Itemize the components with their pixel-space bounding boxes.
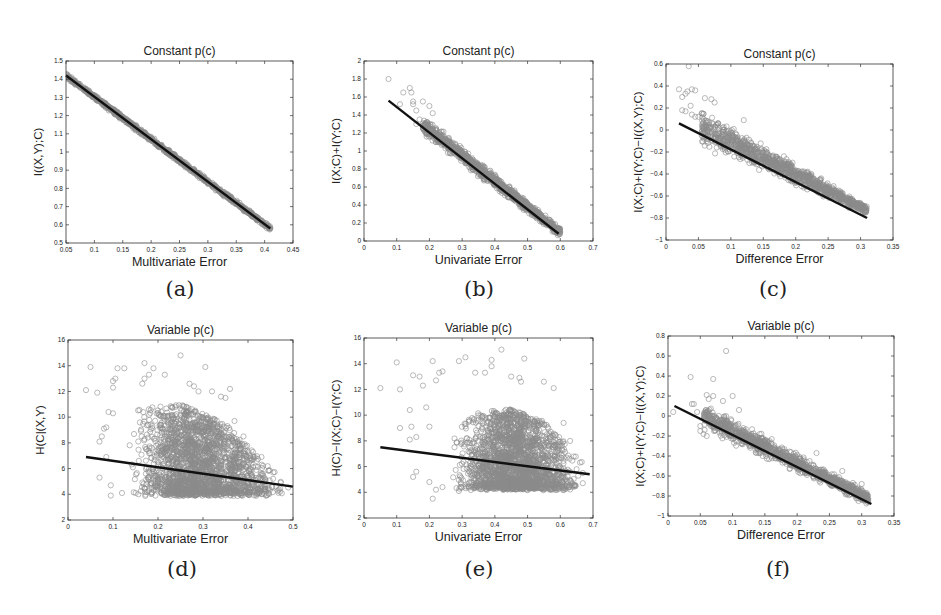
y-tick-label: 0.8: [54, 185, 63, 192]
data-point: [209, 389, 214, 394]
y-tick-label: 0.7: [54, 203, 63, 210]
panel-title: Variable p(c): [147, 323, 214, 337]
y-tick-label: 0.6: [352, 183, 361, 190]
data-point: [456, 359, 461, 364]
x-axis-label: Multivariate Error: [133, 532, 228, 546]
data-point: [122, 366, 127, 371]
x-tick-label: 0.3: [198, 523, 207, 530]
data-point: [688, 103, 693, 108]
data-point: [710, 115, 715, 120]
data-point: [473, 370, 478, 375]
data-point: [463, 355, 468, 360]
y-tick-label: 6: [61, 465, 65, 472]
data-point: [401, 90, 406, 95]
y-tick-label: 0.8: [656, 332, 665, 339]
data-point: [271, 476, 276, 481]
panel-caption-c: (c): [733, 277, 813, 301]
data-point: [427, 424, 432, 429]
data-point: [680, 94, 685, 99]
panel-caption-b: (b): [439, 277, 519, 301]
panel-f: 00.050.10.150.20.250.30.35−1−0.8−0.6−0.4…: [634, 319, 901, 542]
data-point: [440, 369, 445, 374]
x-tick-label: 0.45: [287, 246, 300, 253]
data-point: [420, 383, 425, 388]
x-tick-label: 0: [362, 244, 366, 251]
data-point: [386, 76, 391, 81]
data-point: [394, 360, 399, 365]
x-tick-label: 0.05: [60, 246, 73, 253]
x-tick-label: 0.7: [588, 244, 597, 251]
x-tick-label: 0: [362, 521, 366, 528]
x-tick-label: 0.2: [425, 244, 434, 251]
data-point: [695, 409, 700, 414]
y-tick-label: −0.4: [652, 452, 665, 459]
y-tick-label: −1: [658, 512, 666, 519]
y-axis-ticks: −1−0.8−0.6−0.4−0.200.20.40.6: [650, 60, 893, 243]
data-point: [97, 439, 102, 444]
y-tick-label: 0.2: [656, 392, 665, 399]
data-point: [397, 387, 402, 392]
y-tick-label: −0.8: [652, 492, 665, 499]
y-tick-label: 14: [58, 362, 66, 369]
data-point: [99, 434, 104, 439]
data-point: [407, 407, 412, 412]
data-point: [110, 385, 115, 390]
y-tick-label: 14: [354, 360, 362, 367]
y-tick-label: 0.9: [54, 166, 63, 173]
data-point: [427, 103, 432, 108]
data-point: [541, 379, 546, 384]
data-point: [713, 151, 718, 156]
x-tick-label: 0.1: [392, 521, 401, 528]
fit-line: [674, 406, 871, 504]
data-point: [522, 356, 527, 361]
x-tick-label: 0.3: [856, 243, 865, 250]
data-point: [430, 111, 435, 116]
scatter-points: [671, 348, 871, 506]
data-point: [411, 474, 416, 479]
x-tick-label: 0.5: [288, 523, 297, 530]
data-point: [162, 372, 167, 377]
data-point: [430, 496, 435, 501]
y-tick-label: 0.6: [654, 60, 663, 67]
x-tick-label: 0.2: [153, 523, 162, 530]
fit-line: [389, 101, 559, 234]
data-point: [693, 88, 698, 93]
data-point: [409, 90, 414, 95]
data-point: [119, 490, 124, 495]
panel-caption-d: (d): [142, 557, 222, 581]
x-tick-label: 0.1: [90, 246, 99, 253]
x-tick-label: 0.1: [728, 519, 737, 526]
data-point: [433, 378, 438, 383]
fit-line: [679, 123, 867, 218]
data-point: [683, 109, 688, 114]
panel-e: 00.10.20.30.40.50.60.7246810121416Variab…: [330, 321, 598, 544]
data-point: [143, 458, 148, 463]
data-point: [203, 364, 208, 369]
x-tick-label: 0.7: [588, 521, 597, 528]
panel-title: Constant p(c): [143, 44, 215, 58]
data-point: [702, 96, 707, 101]
data-point: [191, 384, 196, 389]
data-point: [97, 475, 102, 480]
scatter-points: [83, 353, 290, 499]
y-tick-label: 12: [58, 388, 66, 395]
y-tick-label: −1: [656, 236, 664, 243]
y-tick-label: 1.5: [54, 57, 63, 64]
x-tick-label: 0.35: [887, 243, 900, 250]
y-tick-label: 0.5: [54, 239, 63, 246]
x-tick-label: 0: [666, 519, 670, 526]
data-point: [241, 434, 246, 439]
x-axis-ticks: 00.10.20.30.40.50.60.7: [362, 61, 598, 251]
data-point: [108, 483, 113, 488]
x-tick-label: 0.25: [173, 246, 186, 253]
y-axis-label: I(X;C)+I(Y;C): [330, 118, 342, 184]
x-axis-label: Univariate Error: [435, 253, 523, 267]
panel-caption-e: (e): [439, 557, 519, 581]
panel-title: Variable p(c): [747, 319, 814, 333]
data-point: [724, 348, 729, 353]
data-point: [397, 425, 402, 430]
data-point: [414, 469, 419, 474]
y-tick-label: 8: [357, 437, 361, 444]
data-point: [378, 386, 383, 391]
data-point: [146, 372, 151, 377]
